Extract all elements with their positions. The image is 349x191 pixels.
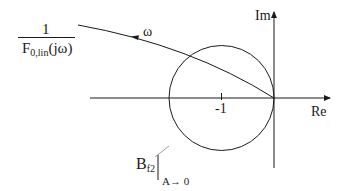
denominator-subscript: 0,lin — [30, 47, 48, 58]
diagram-canvas — [0, 0, 349, 191]
nyquist-diagram: 1 F0,lin(jω) ω Im Re -1 Bf2 A→ 0 — [0, 0, 349, 191]
curve-label-numerator: 1 — [42, 22, 50, 37]
tick-label-minus-one: -1 — [215, 102, 227, 116]
circle-label-main: B — [136, 155, 147, 172]
omega-direction-arrow-icon — [131, 35, 139, 40]
circle-label: Bf2 — [136, 156, 155, 174]
omega-label: ω — [143, 25, 152, 39]
denominator-tail: (jω) — [48, 40, 72, 56]
curve-label-denominator: F0,lin(jω) — [22, 41, 72, 58]
circle-label-subscript: f2 — [147, 163, 155, 174]
limit-condition: A→ 0 — [162, 176, 189, 187]
fraction-bar — [18, 37, 75, 38]
imaginary-axis-label: Im — [255, 9, 271, 23]
real-axis-label: Re — [311, 105, 327, 119]
circle-label-leader — [155, 146, 169, 157]
inverse-nyquist-curve — [78, 25, 274, 98]
